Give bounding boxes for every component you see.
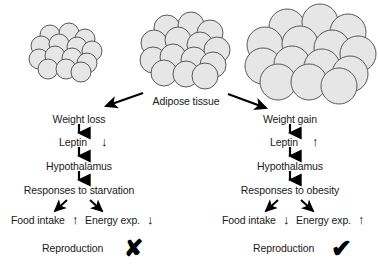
right-energy-exp-trend-arrow: ↑ (358, 213, 365, 226)
left-step-hypothalamus: Hypothalamus (46, 161, 112, 172)
large-adipocyte-cluster (245, 6, 373, 98)
adipose-tissue-label: Adipose tissue (153, 96, 220, 107)
right-outcome-food-intake: Food intake (222, 215, 276, 226)
right-outcome-energy-exp: Energy exp. (296, 215, 351, 226)
right-arrow-responses-to-energyexp (301, 200, 313, 211)
left-outcome-food-intake: Food intake (11, 215, 65, 226)
left-outcome-reproduction: Reproduction (42, 243, 103, 254)
left-energy-exp-trend-arrow: ↓ (147, 213, 154, 226)
small-adipocyte-cluster (28, 22, 108, 84)
right-arrow-responses-to-foodintake (266, 200, 278, 211)
left-step-responses-to-starvation: Responses to starvation (24, 185, 134, 196)
left-arrow-responses-to-energyexp (90, 200, 102, 211)
right-step-hypothalamus: Hypothalamus (257, 161, 323, 172)
cross-mark-icon: ✘ (124, 237, 143, 260)
left-food-intake-trend-arrow: ↑ (72, 213, 79, 226)
adipose-leptin-signaling-diagram: Adipose tissue Weight loss Leptin ↓ Hypo… (0, 0, 378, 275)
right-food-intake-trend-arrow: ↓ (283, 213, 290, 226)
left-step-weight-loss: Weight loss (53, 114, 106, 125)
left-outcome-energy-exp: Energy exp. (85, 215, 140, 226)
right-step-leptin: Leptin (270, 137, 298, 148)
right-step-weight-gain: Weight gain (263, 114, 317, 125)
left-arrow-responses-to-foodintake (55, 200, 67, 211)
arrow-to-weight-loss (106, 93, 143, 106)
check-mark-icon: ✔ (331, 236, 352, 261)
medium-adipocyte-cluster (139, 12, 231, 90)
right-leptin-trend-arrow: ↑ (312, 135, 319, 148)
right-outcome-reproduction: Reproduction (253, 243, 314, 254)
right-step-responses-to-obesity: Responses to obesity (241, 185, 339, 196)
left-step-leptin: Leptin (59, 137, 87, 148)
left-leptin-trend-arrow: ↓ (101, 135, 108, 148)
